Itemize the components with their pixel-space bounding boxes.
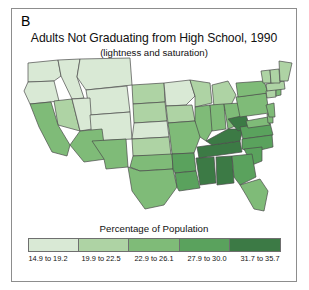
map-region-missouri [168,121,200,154]
panel-letter: B [21,13,31,29]
map-region-south-dakota [133,102,167,123]
title-block: Adults Not Graduating from High School, … [12,31,296,58]
map-region-georgia [232,154,256,185]
legend-label-1: 14.9 to 19.2 [22,254,75,263]
map-region-new-hampshire [270,69,280,83]
choropleth-map [14,57,296,223]
map-region-oklahoma [130,154,173,171]
map-region-florida [240,179,268,211]
map-region-iowa [166,105,195,123]
map-region-montana [77,58,132,90]
legend-label-2: 19.9 to 22.5 [75,254,128,263]
legend-swatch-5 [230,239,279,251]
map-region-texas [128,167,177,209]
map-region-nebraska [132,121,169,139]
legend-label-row: 14.9 to 19.219.9 to 22.522.9 to 26.127.9… [22,254,287,263]
map-region-louisiana [175,171,200,191]
map-region-wyoming [86,86,130,115]
legend-title: Percentage of Population [12,223,296,234]
map-title: Adults Not Graduating from High School, … [12,31,296,45]
map-region-oregon [24,81,59,104]
legend-swatch-3 [129,239,179,251]
legend-swatch-2 [79,239,129,251]
map-region-minnesota [164,80,195,106]
map-region-kansas [132,137,171,156]
map-region-indiana [210,104,226,131]
legend-swatch-row [28,238,281,252]
figure-panel: B Adults Not Graduating from High School… [11,8,297,282]
map-region-arkansas [172,153,196,173]
map-region-alabama [216,156,234,185]
map-region-maine [279,61,292,81]
legend-label-5: 31.7 to 35.7 [234,254,287,263]
map-region-washington [28,60,61,82]
map-region-vermont [261,70,271,83]
legend-label-4: 27.9 to 30.0 [181,254,234,263]
legend-label-3: 22.9 to 26.1 [128,254,181,263]
map-region-north-dakota [132,83,165,104]
map-region-mississippi [196,157,216,185]
map-legend: Percentage of Population 14.9 to 19.219.… [12,223,296,263]
legend-swatch-4 [180,239,230,251]
legend-swatch-1 [29,239,79,251]
